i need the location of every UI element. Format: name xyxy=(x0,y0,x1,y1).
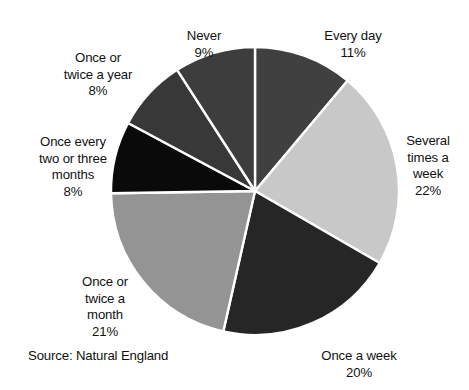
pie-label-once-or-twice-a-month-percent: 21% xyxy=(52,324,158,340)
pie-label-once-or-twice-a-month-text: Once or twice a month xyxy=(82,274,128,322)
pie-label-once-or-twice-a-year-percent: 8% xyxy=(36,83,160,99)
pie-label-once-every-two-or-three-months: Once every two or three months 8% xyxy=(10,118,136,216)
pie-label-once-a-week-percent: 20% xyxy=(300,365,418,381)
pie-label-once-or-twice-a-month: Once or twice a month 21% xyxy=(52,258,158,356)
pie-label-never-text: Never xyxy=(187,28,221,43)
pie-label-several-times-a-week-text: Several times a week xyxy=(406,133,450,181)
pie-label-never: Never 9% xyxy=(158,12,250,78)
pie-label-once-or-twice-a-year-text: Once or twice a year xyxy=(64,50,133,81)
pie-chart-figure: Every day 11% Several times a week 22% O… xyxy=(0,0,469,390)
pie-label-several-times-a-week: Several times a week 22% xyxy=(390,117,466,215)
source-attribution: Source: Natural England xyxy=(28,348,168,364)
pie-label-every-day: Every day 11% xyxy=(300,12,406,78)
pie-label-once-a-week-text: Once a week xyxy=(321,348,396,363)
pie-label-once-a-week: Once a week 20% xyxy=(300,332,418,390)
pie-label-once-or-twice-a-year: Once or twice a year 8% xyxy=(36,34,160,116)
pie-label-never-percent: 9% xyxy=(158,45,250,61)
pie-label-once-every-two-or-three-months-percent: 8% xyxy=(10,184,136,200)
pie-label-several-times-a-week-percent: 22% xyxy=(390,183,466,199)
pie-label-once-every-two-or-three-months-text: Once every two or three months xyxy=(39,134,107,182)
pie-label-every-day-text: Every day xyxy=(324,28,381,43)
pie-label-every-day-percent: 11% xyxy=(300,45,406,61)
